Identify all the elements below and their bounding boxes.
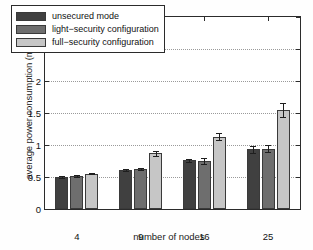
- error-bar: [219, 133, 220, 140]
- y-tick-mark: [296, 113, 300, 114]
- bar: [55, 177, 68, 209]
- error-bar-cap: [74, 177, 80, 178]
- bar: [262, 149, 275, 209]
- gridline: [45, 113, 300, 114]
- bar: [85, 174, 98, 209]
- error-bar-cap: [153, 151, 159, 152]
- y-tick-label: 0: [3, 204, 41, 215]
- y-tick-label: 0.5: [3, 172, 41, 183]
- error-bar-cap: [186, 159, 192, 160]
- error-bar-cap: [74, 175, 80, 176]
- bar: [183, 160, 196, 209]
- y-tick-mark: [296, 49, 300, 50]
- bar: [149, 153, 162, 209]
- legend-swatch-unsecured-mode: [16, 12, 46, 21]
- x-tick-mark: [204, 17, 205, 21]
- y-tick-label: 1.5: [3, 108, 41, 119]
- legend-label-light-security-configuration: light−security configuration: [52, 24, 159, 34]
- y-tick-label: 1: [3, 140, 41, 151]
- x-tick-label: 25: [248, 231, 288, 242]
- bar: [119, 170, 132, 209]
- bar: [277, 110, 290, 209]
- error-bar-cap: [201, 164, 207, 165]
- error-bar-cap: [59, 178, 65, 179]
- bar: [134, 169, 147, 209]
- error-bar-cap: [89, 174, 95, 175]
- legend-item-unsecured-mode: unsecured mode: [16, 10, 159, 22]
- y-tick-mark: [45, 209, 49, 210]
- error-bar-cap: [250, 153, 256, 154]
- bar: [247, 149, 260, 209]
- error-bar-cap: [201, 158, 207, 159]
- error-bar-cap: [265, 145, 271, 146]
- error-bar-cap: [186, 162, 192, 163]
- y-tick-mark: [45, 145, 49, 146]
- legend-label-unsecured-mode: unsecured mode: [52, 11, 119, 21]
- legend-label-full-security-configuration: full−security configuration: [52, 37, 154, 47]
- error-bar-cap: [153, 156, 159, 157]
- gridline: [45, 145, 300, 146]
- legend-swatch-light-security-configuration: [16, 25, 46, 34]
- y-tick-label: 2: [3, 76, 41, 87]
- bar: [213, 137, 226, 209]
- legend-swatch-full-security-configuration: [16, 38, 46, 47]
- legend-item-full-security-configuration: full−security configuration: [16, 36, 159, 48]
- error-bar-cap: [123, 171, 129, 172]
- chart-legend: unsecured mode light−security configurat…: [11, 5, 165, 53]
- error-bar-cap: [123, 169, 129, 170]
- figure-canvas: average power consumption (mW) number of…: [0, 0, 313, 250]
- error-bar-cap: [216, 133, 222, 134]
- y-tick-mark: [45, 113, 49, 114]
- error-bar: [253, 146, 254, 153]
- y-tick-mark: [45, 177, 49, 178]
- y-tick-mark: [45, 81, 49, 82]
- y-tick-mark: [296, 209, 300, 210]
- y-tick-mark: [296, 17, 300, 18]
- error-bar-cap: [250, 146, 256, 147]
- bar: [198, 161, 211, 209]
- legend-item-light-security-configuration: light−security configuration: [16, 23, 159, 35]
- error-bar-cap: [280, 117, 286, 118]
- y-tick-mark: [296, 145, 300, 146]
- y-tick-mark: [296, 177, 300, 178]
- error-bar-cap: [216, 140, 222, 141]
- error-bar: [283, 103, 284, 117]
- error-bar-cap: [265, 152, 271, 153]
- bar: [70, 176, 83, 209]
- error-bar: [268, 145, 269, 152]
- error-bar-cap: [138, 170, 144, 171]
- y-tick-mark: [296, 81, 300, 82]
- x-tick-mark: [268, 17, 269, 21]
- error-bar-cap: [280, 103, 286, 104]
- x-tick-label: 9: [121, 231, 161, 242]
- error-bar-cap: [138, 168, 144, 169]
- gridline: [45, 81, 300, 82]
- x-tick-label: 4: [57, 231, 97, 242]
- x-tick-label: 16: [184, 231, 224, 242]
